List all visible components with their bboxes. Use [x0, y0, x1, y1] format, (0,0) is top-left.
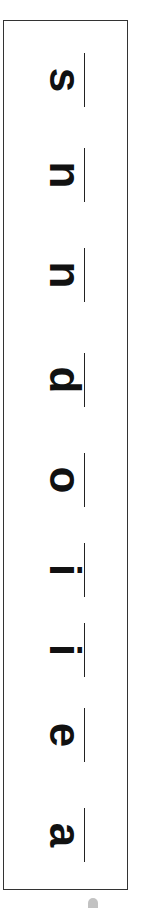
letter-slot: i [0, 535, 143, 605]
letter-slot: i [0, 615, 143, 685]
letter: i [40, 545, 90, 595]
letter: n [40, 250, 90, 300]
letter: i [40, 625, 90, 675]
baseline-line [84, 543, 85, 597]
letter: d [40, 355, 90, 405]
scan-smudge [88, 898, 98, 908]
letter-slot: o [0, 445, 143, 515]
baseline-line [84, 708, 85, 762]
letter: s [40, 55, 90, 105]
baseline-line [84, 623, 85, 677]
letter: o [40, 455, 90, 505]
baseline-line [84, 453, 85, 507]
letter-slot: a [0, 800, 143, 870]
baseline-line [84, 353, 85, 407]
letter-slot: s [0, 45, 143, 115]
baseline-line [84, 148, 85, 202]
letter-slot: d [0, 345, 143, 415]
letter-slot: n [0, 240, 143, 310]
letter-slot: e [0, 700, 143, 770]
letter: n [40, 150, 90, 200]
baseline-line [84, 248, 85, 302]
letter: e [40, 710, 90, 760]
baseline-line [84, 53, 85, 107]
baseline-line [84, 808, 85, 862]
letter: a [40, 810, 90, 860]
letter-slot: n [0, 140, 143, 210]
